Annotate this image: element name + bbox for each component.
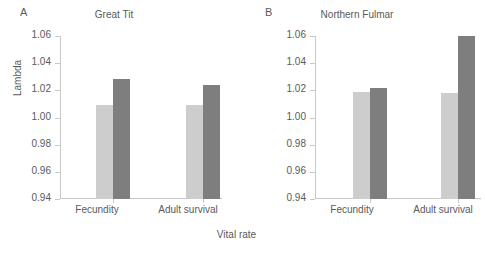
y-tick-a-5: 1.04 [55,63,60,64]
y-tick-b-4: 1.02 [310,90,315,91]
plot-area-a: 0.940.960.981.001.021.041.06 [60,36,222,199]
y-tick-label-a-2: 0.98 [32,138,51,149]
y-tick-a-0: 0.94 [55,199,60,200]
bar-b-fecundity-dark [370,88,387,199]
panel-b: B Northern Fulmar 0.940.960.981.001.021.… [237,0,473,225]
x-category-label-a-0: Fecundity [62,204,132,215]
y-axis-line-a [60,36,61,199]
y-tick-label-b-5: 1.04 [287,56,306,67]
y-tick-label-a-4: 1.02 [32,83,51,94]
y-axis-line-b [315,36,316,199]
x-category-label-a-1: Adult survival [145,204,231,215]
y-tick-a-4: 1.02 [55,90,60,91]
y-tick-b-2: 0.98 [310,145,315,146]
y-tick-b-6: 1.06 [310,36,315,37]
y-tick-b-1: 0.96 [310,172,315,173]
y-tick-a-2: 0.98 [55,145,60,146]
bar-b-adult-survival-dark [458,36,475,199]
y-tick-b-5: 1.04 [310,63,315,64]
bar-b-adult-survival-light [441,93,458,199]
bar-a-fecundity-light [96,105,113,199]
bar-a-fecundity-dark [113,79,130,199]
x-tick-b-1 [458,199,459,203]
x-axis-label-shared: Vital rate [0,229,473,240]
y-tick-label-a-1: 0.96 [32,165,51,176]
x-category-label-b-1: Adult survival [400,204,485,215]
y-tick-label-b-0: 0.94 [287,192,306,203]
panel-a: A Great Tit Lambda 0.940.960.981.001.021… [0,0,236,225]
y-axis-label-a: Lambda [12,60,23,96]
bar-a-adult-survival-light [186,105,203,199]
x-tick-a-1 [203,199,204,203]
x-category-label-b-0: Fecundity [317,204,387,215]
plot-area-b: 0.940.960.981.001.021.041.06 [315,36,477,199]
y-tick-b-0: 0.94 [310,199,315,200]
y-tick-label-a-0: 0.94 [32,192,51,203]
bar-b-fecundity-light [353,92,370,199]
x-tick-b-0 [370,199,371,203]
y-tick-a-1: 0.96 [55,172,60,173]
y-tick-label-a-6: 1.06 [32,29,51,40]
y-tick-label-b-1: 0.96 [287,165,306,176]
bar-a-adult-survival-dark [203,85,220,199]
y-tick-label-a-3: 1.00 [32,111,51,122]
y-tick-label-a-5: 1.04 [32,56,51,67]
panel-title-b: Northern Fulmar [257,9,457,20]
y-tick-label-b-3: 1.00 [287,111,306,122]
y-tick-b-3: 1.00 [310,118,315,119]
y-tick-a-3: 1.00 [55,118,60,119]
y-tick-a-6: 1.06 [55,36,60,37]
panel-title-a: Great Tit [14,9,214,20]
y-tick-label-b-2: 0.98 [287,138,306,149]
y-tick-label-b-4: 1.02 [287,83,306,94]
x-tick-a-0 [113,199,114,203]
y-tick-label-b-6: 1.06 [287,29,306,40]
